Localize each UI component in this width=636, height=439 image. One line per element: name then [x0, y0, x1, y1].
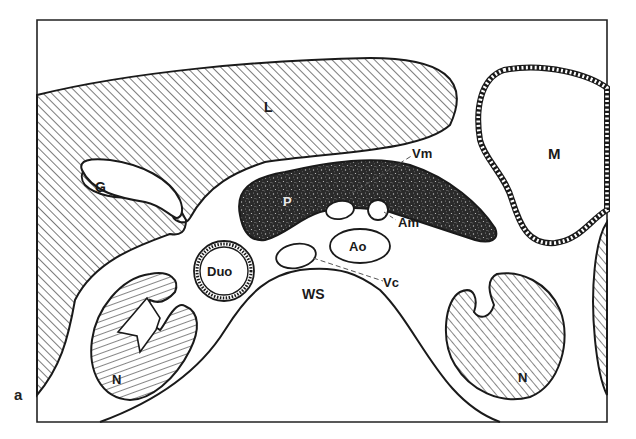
anatomy-diagram: L G P M Vm Am Ao Vc Duo WS N N — [0, 0, 636, 439]
label-kidney-left: N — [112, 372, 121, 387]
label-kidney-right: N — [518, 370, 527, 385]
mesenteric-artery-shape — [368, 200, 388, 220]
label-gallbladder: G — [95, 179, 106, 195]
label-liver: L — [264, 99, 273, 115]
panel-label: a — [14, 386, 22, 403]
right-edge-organ — [593, 222, 607, 395]
label-duodenum: Duo — [207, 264, 232, 279]
label-pancreas: P — [283, 194, 292, 209]
label-vc: Vc — [383, 275, 399, 290]
label-stomach: M — [548, 145, 561, 162]
label-spine: WS — [302, 286, 325, 302]
stomach-shape — [478, 68, 607, 244]
vena-cava-shape — [274, 241, 318, 272]
label-aorta: Ao — [349, 239, 366, 254]
right-kidney-shape — [446, 273, 565, 399]
label-vm: Vm — [412, 146, 432, 161]
label-am: Am — [398, 215, 419, 230]
